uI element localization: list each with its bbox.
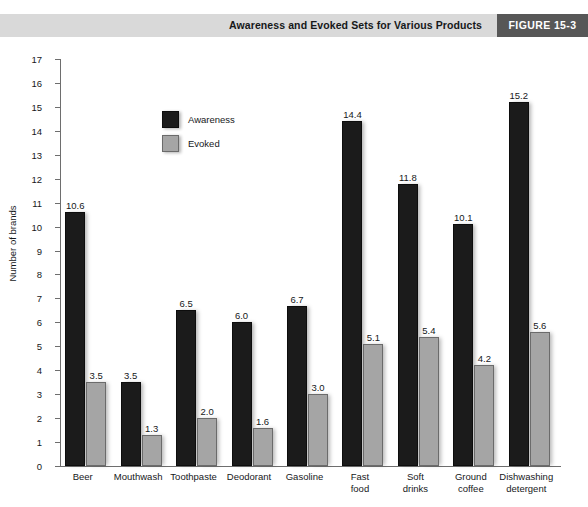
bar-evoked-beer: 3.5 xyxy=(86,382,106,466)
y-axis-tick-label: 5 xyxy=(0,341,46,352)
bar-value-label: 6.5 xyxy=(180,298,193,309)
bar-awareness-toothpaste: 6.5 xyxy=(176,310,196,466)
x-axis-category-label: Toothpaste xyxy=(166,471,221,483)
bar-value-label: 3.5 xyxy=(124,370,137,381)
y-axis-tick-label: 14 xyxy=(0,125,46,136)
x-axis-category-label: Fast food xyxy=(332,471,387,494)
y-axis-tick-label: 2 xyxy=(0,413,46,424)
y-axis-tick-label: 13 xyxy=(0,149,46,160)
y-axis-tick-label: 10 xyxy=(0,221,46,232)
bar-evoked-ground-coffee: 4.2 xyxy=(474,365,494,466)
bar-value-label: 5.4 xyxy=(422,325,435,336)
y-axis-tick-label: 7 xyxy=(0,293,46,304)
chart-legend: AwarenessEvoked xyxy=(162,110,282,158)
bar-value-label: 3.0 xyxy=(311,382,324,393)
bar-awareness-fast-food: 14.4 xyxy=(342,121,362,466)
x-axis-category-label: Mouthwash xyxy=(110,471,165,483)
legend-item: Awareness xyxy=(162,110,282,129)
bar-evoked-fast-food: 5.1 xyxy=(363,344,383,466)
y-axis-tick-label: 6 xyxy=(0,317,46,328)
bar-awareness-ground-coffee: 10.1 xyxy=(453,224,473,466)
bar-awareness-soft-drinks: 11.8 xyxy=(398,184,418,467)
bar-value-label: 10.6 xyxy=(66,200,85,211)
x-axis-category-label: Soft drinks xyxy=(388,471,443,494)
y-axis-tick-label: 15 xyxy=(0,101,46,112)
y-axis-tick-label: 9 xyxy=(0,245,46,256)
bar-awareness-gasoline: 6.7 xyxy=(287,306,307,466)
figure-number-badge: FIGURE 15-3 xyxy=(497,14,588,37)
x-axis-category-label: Beer xyxy=(55,471,110,483)
legend-swatch-gray xyxy=(162,135,179,152)
bar-value-label: 6.0 xyxy=(235,310,248,321)
bar-value-label: 10.1 xyxy=(454,212,473,223)
bar-value-label: 1.3 xyxy=(145,423,158,434)
bar-awareness-mouthwash: 3.5 xyxy=(121,382,141,466)
y-axis-tick-label: 12 xyxy=(0,173,46,184)
y-axis-tick-label: 16 xyxy=(0,77,46,88)
y-axis-tick-label: 11 xyxy=(0,197,46,208)
y-axis-tick-label: 8 xyxy=(0,269,46,280)
plot-area: 10.63.53.51.36.52.06.01.66.73.014.45.111… xyxy=(61,59,560,466)
bar-awareness-beer: 10.6 xyxy=(65,212,85,466)
x-axis-category-label: Dishwashing detergent xyxy=(499,471,554,494)
bar-evoked-gasoline: 3.0 xyxy=(308,394,328,466)
y-axis-tick-label: 3 xyxy=(0,389,46,400)
legend-item: Evoked xyxy=(162,134,282,153)
bar-evoked-toothpaste: 2.0 xyxy=(197,418,217,466)
bar-evoked-dishwashing-detergent: 5.6 xyxy=(530,332,550,466)
page-title: Awareness and Evoked Sets for Various Pr… xyxy=(0,14,494,37)
legend-item-label: Awareness xyxy=(188,114,235,125)
x-axis-category-label: Gasoline xyxy=(277,471,332,483)
bar-evoked-mouthwash: 1.3 xyxy=(142,435,162,466)
bar-value-label: 6.7 xyxy=(290,294,303,305)
bar-value-label: 2.0 xyxy=(201,406,214,417)
legend-swatch-dark xyxy=(162,111,179,128)
bar-awareness-deodorant: 6.0 xyxy=(232,322,252,466)
bar-value-label: 14.4 xyxy=(343,109,362,120)
x-axis-category-label: Deodorant xyxy=(221,471,276,483)
y-axis-tick-label: 17 xyxy=(0,54,46,65)
y-axis-tick-mark xyxy=(55,466,61,467)
y-axis-tick-label: 1 xyxy=(0,437,46,448)
bar-value-label: 5.6 xyxy=(533,320,546,331)
bar-chart: Number of brands 01234567891011121314151… xyxy=(0,40,588,507)
bar-value-label: 4.2 xyxy=(478,353,491,364)
x-axis-category-label: Ground coffee xyxy=(443,471,498,494)
bar-value-label: 5.1 xyxy=(367,332,380,343)
bar-evoked-deodorant: 1.6 xyxy=(253,428,273,466)
y-axis-tick-label: 4 xyxy=(0,365,46,376)
bar-awareness-dishwashing-detergent: 15.2 xyxy=(509,102,529,466)
x-axis-line xyxy=(60,466,561,467)
bar-value-label: 3.5 xyxy=(90,370,103,381)
legend-item-label: Evoked xyxy=(188,138,220,149)
bar-value-label: 15.2 xyxy=(510,90,529,101)
y-axis-tick-label: 0 xyxy=(0,461,46,472)
bar-evoked-soft-drinks: 5.4 xyxy=(419,337,439,466)
bar-value-label: 11.8 xyxy=(399,172,417,183)
bar-value-label: 1.6 xyxy=(256,416,269,427)
